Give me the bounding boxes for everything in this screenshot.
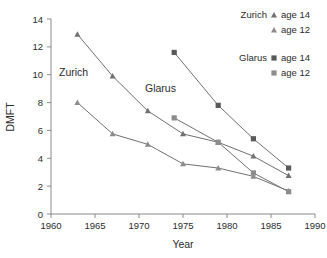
legend-age-label: age 14 — [281, 52, 310, 63]
y-tick-label: 14 — [32, 14, 43, 25]
series-zurich-age-12 — [74, 99, 291, 193]
y-tick-label: 10 — [32, 69, 43, 80]
x-tick-1975: 1975 — [172, 214, 193, 231]
series-label-zurich: Zurich — [59, 66, 88, 78]
y-tick-12: 12 — [32, 41, 51, 52]
x-tick-1990: 1990 — [304, 214, 325, 231]
data-point — [74, 31, 80, 37]
legend-entry: age 12 — [271, 24, 310, 35]
x-tick-1960: 1960 — [40, 214, 61, 231]
y-tick-label: 2 — [38, 181, 43, 192]
x-tick-label: 1965 — [84, 220, 105, 231]
y-tick-label: 0 — [38, 209, 43, 220]
data-point — [216, 103, 221, 108]
data-point — [216, 140, 221, 145]
series-glarus-age-14 — [172, 50, 292, 171]
x-axis-ticks: 1960 1965 1970 1975 1980 1985 — [40, 214, 325, 231]
legend-entry: Glarusage 14 — [239, 52, 310, 63]
y-tick-10: 10 — [32, 69, 51, 80]
y-tick-label: 12 — [32, 41, 43, 52]
y-tick-4: 4 — [38, 153, 51, 164]
chart-container: DMFT 0 2 4 6 8 — [0, 0, 327, 258]
x-axis-title: Year — [172, 238, 194, 250]
data-point — [172, 50, 177, 55]
x-tick-label: 1975 — [172, 220, 193, 231]
legend-marker-triangle — [271, 27, 277, 33]
y-axis-title: DMFT — [4, 102, 16, 132]
y-tick-label: 4 — [38, 153, 43, 164]
data-point — [74, 99, 80, 105]
data-point — [286, 189, 291, 194]
data-point — [286, 165, 291, 170]
y-tick-8: 8 — [38, 97, 51, 108]
data-point — [286, 173, 292, 179]
data-point — [180, 161, 186, 167]
legend-region-label: Zurich — [241, 9, 267, 20]
y-tick-2: 2 — [38, 181, 51, 192]
series-line — [174, 118, 288, 192]
legend-age-label: age 12 — [281, 24, 310, 35]
legend-marker-square — [271, 55, 276, 60]
legend-marker-square — [271, 70, 276, 75]
x-tick-label: 1960 — [40, 220, 61, 231]
data-point — [172, 115, 177, 120]
series-line — [77, 103, 288, 191]
x-tick-1980: 1980 — [216, 214, 237, 231]
y-tick-0: 0 — [38, 209, 51, 220]
x-tick-label: 1990 — [304, 220, 325, 231]
dmft-line-chart: DMFT 0 2 4 6 8 — [0, 0, 327, 258]
y-tick-label: 6 — [38, 125, 43, 136]
legend-entry: age 12 — [271, 67, 310, 78]
data-point — [180, 131, 186, 137]
y-tick-6: 6 — [38, 125, 51, 136]
x-tick-1965: 1965 — [84, 214, 105, 231]
data-point — [251, 136, 256, 141]
y-axis-ticks: 0 2 4 6 8 10 1 — [32, 14, 51, 220]
x-tick-1985: 1985 — [260, 214, 281, 231]
y-tick-label: 8 — [38, 97, 43, 108]
series-label-glarus: Glarus — [145, 82, 176, 94]
x-tick-label: 1980 — [216, 220, 237, 231]
legend-age-label: age 14 — [281, 9, 310, 20]
x-tick-label: 1985 — [260, 220, 281, 231]
y-tick-14: 14 — [32, 14, 51, 25]
chart-legend: Zurichage 14age 12Glarusage 14age 12 — [239, 9, 310, 78]
legend-marker-triangle — [271, 12, 277, 18]
x-tick-label: 1970 — [128, 220, 149, 231]
legend-age-label: age 12 — [281, 67, 310, 78]
series-line — [174, 52, 288, 168]
legend-entry: Zurichage 14 — [241, 9, 310, 20]
legend-region-label: Glarus — [239, 52, 267, 63]
data-point — [251, 170, 256, 175]
x-tick-1970: 1970 — [128, 214, 149, 231]
